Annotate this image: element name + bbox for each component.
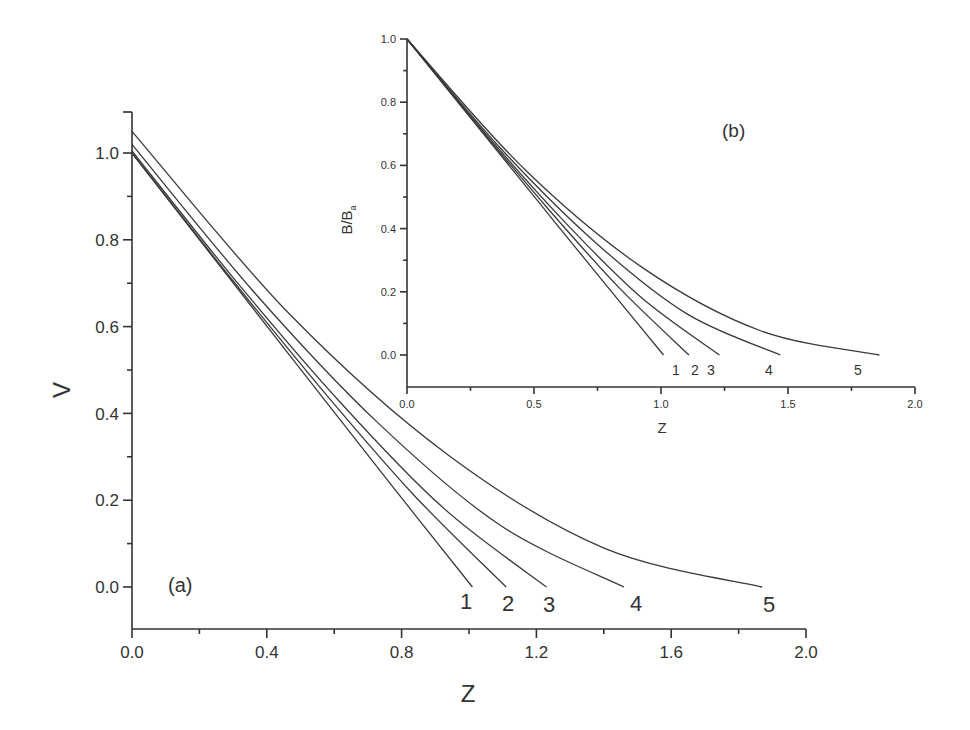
chart-figure: 0.00.20.40.60.81.00.00.40.81.21.62.01234…: [0, 0, 970, 730]
curve-label-4: 4: [765, 362, 773, 378]
x-axis-title: Z: [461, 680, 476, 707]
x-tick-label: 1.0: [653, 398, 668, 410]
curve-label-3: 3: [543, 592, 555, 617]
x-tick-label: 0.8: [390, 643, 414, 662]
y-tick-label: 0.4: [381, 223, 396, 235]
y-tick-label: 0.8: [381, 96, 396, 108]
y-tick-label: 0.0: [381, 349, 396, 361]
curve-label-2: 2: [691, 362, 699, 378]
y-axis-title: V: [48, 382, 75, 398]
panel-label: (a): [168, 574, 192, 596]
curve-3: [407, 39, 719, 355]
y-tick-label: 0.0: [95, 578, 119, 597]
y-axis-title: B/Ba: [338, 205, 358, 234]
y-tick-label: 0.2: [95, 491, 119, 510]
main-plot-panel-a: 0.00.20.40.60.81.00.00.40.81.21.62.01234…: [48, 112, 818, 707]
curve-4: [407, 39, 780, 355]
y-tick-label: 1.0: [95, 144, 119, 163]
x-tick-label: 0.0: [399, 398, 414, 410]
x-tick-label: 0.5: [526, 398, 541, 410]
y-tick-label: 0.8: [95, 231, 119, 250]
curve-label-1: 1: [460, 589, 472, 614]
curve-5: [407, 39, 879, 355]
y-tick-label: 1.0: [381, 33, 396, 45]
curve-label-1: 1: [672, 362, 680, 378]
curve-2: [132, 153, 506, 587]
x-tick-label: 0.4: [255, 643, 279, 662]
curve-label-5: 5: [854, 362, 862, 378]
curve-label-5: 5: [763, 592, 775, 617]
x-tick-label: 2.0: [794, 643, 818, 662]
x-tick-label: 2.0: [907, 398, 922, 410]
curve-5: [132, 131, 762, 587]
curve-label-2: 2: [502, 591, 514, 616]
curve-label-4: 4: [630, 591, 642, 616]
y-tick-label: 0.6: [95, 318, 119, 337]
y-tick-label: 0.6: [381, 159, 396, 171]
inset-plot-panel-b: 0.00.20.40.60.81.00.00.51.01.52.012345(b…: [338, 33, 923, 436]
panel-label: (b): [722, 120, 745, 141]
x-tick-label: 1.6: [659, 643, 683, 662]
x-tick-label: 0.0: [120, 643, 144, 662]
y-tick-label: 0.2: [381, 286, 396, 298]
x-tick-label: 1.5: [780, 398, 795, 410]
x-axis-title: Z: [657, 419, 666, 436]
curve-label-3: 3: [707, 362, 715, 378]
y-tick-label: 0.4: [95, 405, 119, 424]
x-tick-label: 1.2: [525, 643, 549, 662]
